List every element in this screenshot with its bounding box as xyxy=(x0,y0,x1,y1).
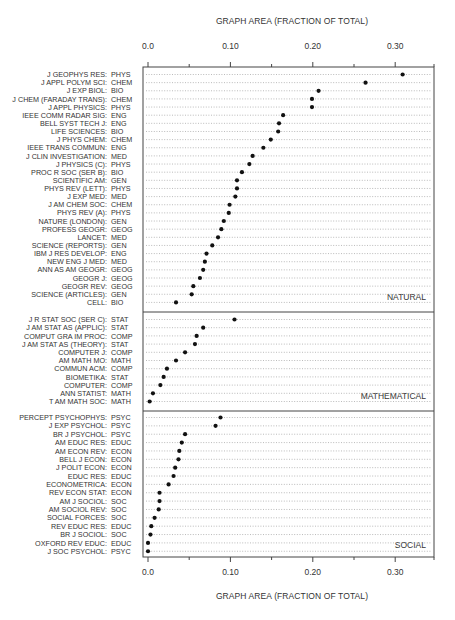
data-point xyxy=(240,170,244,174)
data-point xyxy=(316,89,320,93)
x-axis-title-top: GRAPH AREA (FRACTION OF TOTAL) xyxy=(216,16,368,26)
data-point xyxy=(204,251,208,255)
data-point xyxy=(235,186,239,190)
data-point xyxy=(158,383,162,387)
data-point xyxy=(276,129,280,133)
top-tick-label: 0.20 xyxy=(305,41,322,51)
field-label: PSYC xyxy=(111,547,131,556)
axis-ticks: 0.00.00.100.100.200.200.300.30 xyxy=(142,41,434,577)
bottom-tick-label: 0.30 xyxy=(387,567,404,577)
data-point xyxy=(148,532,152,536)
data-point xyxy=(251,154,255,158)
data-point xyxy=(162,375,166,379)
data-point xyxy=(177,449,181,453)
data-point xyxy=(201,326,205,330)
data-row: CELL:BIO xyxy=(87,298,432,307)
data-point xyxy=(227,203,231,207)
data-point xyxy=(233,195,237,199)
data-point xyxy=(149,524,153,528)
top-tick-label: 0.30 xyxy=(387,41,404,51)
field-label: BIO xyxy=(111,298,124,307)
data-point xyxy=(277,121,281,125)
data-point xyxy=(180,440,184,444)
data-point xyxy=(261,146,265,150)
bottom-tick-label: 0.20 xyxy=(305,567,322,577)
data-point xyxy=(218,415,222,419)
data-point xyxy=(174,300,178,304)
data-point xyxy=(183,350,187,354)
data-point xyxy=(213,424,217,428)
data-point xyxy=(151,391,155,395)
data-point xyxy=(281,113,285,117)
data-point xyxy=(152,516,156,520)
data-point xyxy=(227,211,231,215)
data-point xyxy=(219,227,223,231)
bottom-tick-label: 0.0 xyxy=(142,567,154,577)
panel-label: NATURAL xyxy=(387,292,426,302)
data-row: BR J PSYCHOL:PSYC xyxy=(53,430,432,439)
panel-mathematical: MATHEMATICALJ R STAT SOC (SER C):STATJ A… xyxy=(22,312,434,406)
data-point xyxy=(401,72,405,76)
panels: NATURALJ GEOPHYS RES:PHYSJ APPL POLYM SC… xyxy=(12,70,434,556)
data-point xyxy=(201,268,205,272)
data-row: REV EDUC RES:EDUC xyxy=(51,522,432,531)
data-point xyxy=(171,474,175,478)
journal-label: CELL: xyxy=(87,298,107,307)
field-label: MATH xyxy=(111,397,131,406)
panel-social: SOCIALPERCEPT PSYCHOPHYS:PSYCJ EXP PSYCH… xyxy=(19,411,434,556)
data-point xyxy=(183,432,187,436)
data-point xyxy=(174,358,178,362)
x-axis-title-bottom: GRAPH AREA (FRACTION OF TOTAL) xyxy=(216,591,368,601)
data-point xyxy=(232,317,236,321)
panel-label: MATHEMATICAL xyxy=(361,391,427,401)
data-row: J SOC PSYCHOL:PSYC xyxy=(47,547,432,556)
data-point xyxy=(195,334,199,338)
data-point xyxy=(157,507,161,511)
data-point xyxy=(247,162,251,166)
data-point xyxy=(157,491,161,495)
data-point xyxy=(222,219,226,223)
data-point xyxy=(235,178,239,182)
data-point xyxy=(210,243,214,247)
data-point xyxy=(146,541,150,545)
journal-label: T AM MATH SOC: xyxy=(49,397,107,406)
data-row: LANCET:MED xyxy=(77,233,432,242)
data-row: SCIENTIFIC AM:GEN xyxy=(53,176,432,185)
data-point xyxy=(193,342,197,346)
bottom-tick-label: 0.10 xyxy=(222,567,239,577)
data-point xyxy=(173,466,177,470)
journal-label: J SOC PSYCHOL: xyxy=(47,547,107,556)
dot-plot-chart: GRAPH AREA (FRACTION OF TOTAL) GRAPH ARE… xyxy=(0,0,455,620)
data-point xyxy=(191,284,195,288)
data-point xyxy=(216,235,220,239)
data-point xyxy=(165,367,169,371)
data-point xyxy=(363,81,367,85)
data-point xyxy=(269,138,273,142)
data-point xyxy=(190,292,194,296)
data-point xyxy=(310,105,314,109)
data-point xyxy=(203,260,207,264)
data-point xyxy=(157,499,161,503)
data-point xyxy=(148,399,152,403)
data-row: LIFE SCIENCES:BIO xyxy=(51,127,432,136)
data-point xyxy=(198,276,202,280)
data-point xyxy=(167,482,171,486)
panel-label: SOCIAL xyxy=(395,540,426,550)
data-point xyxy=(176,457,180,461)
top-tick-label: 0.0 xyxy=(142,41,154,51)
data-point xyxy=(310,97,314,101)
top-tick-label: 0.10 xyxy=(222,41,239,51)
panel-natural: NATURALJ GEOPHYS RES:PHYSJ APPL POLYM SC… xyxy=(12,70,432,307)
data-point xyxy=(146,549,150,553)
